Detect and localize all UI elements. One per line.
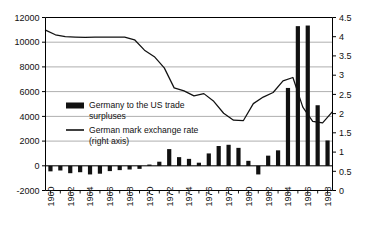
y-tick-label-left: 4000 [19,112,39,122]
bar [316,105,320,166]
bar [236,148,240,166]
bar [88,166,92,175]
y-tick-label-right: 2.5 [339,90,352,100]
bar [187,159,191,166]
y-tick-label-right: 0 [339,186,344,196]
bar [98,166,102,174]
x-tick-label: 1968 [125,186,135,206]
y-tick-label-left: 8000 [19,62,39,72]
y-tick-label-right: 4.5 [339,13,352,23]
y-tick-label-left: 2000 [19,136,39,146]
y-tick-label-right: 1.5 [339,128,352,138]
bar [128,166,132,170]
legend-label-exchange-rate-line2: (right axis) [89,136,129,146]
bar [286,88,290,166]
y-tick-label-left: 12000 [14,13,39,23]
x-tick-label: 1988 [323,186,333,206]
bar [177,157,181,166]
y-tick-label-right: 1 [339,147,344,157]
bar [266,156,270,166]
bar [226,145,230,166]
bar [325,140,329,165]
bar [197,163,201,166]
bar [256,166,260,175]
y-tick-label-left: -2000 [16,186,39,196]
bar [306,26,310,166]
y-tick-label-left: 10000 [14,37,39,47]
x-tick-label: 1960 [46,186,56,206]
bar [108,166,112,171]
x-tick-label: 1966 [105,186,115,206]
bar [58,166,62,171]
legend-label-exchange-rate-line1: German mark exchange rate [89,125,199,135]
y-tick-label-right: 0.5 [339,167,352,177]
y-tick-label-right: 3.5 [339,51,352,61]
x-tick-label: 1982 [264,186,274,206]
chart-container: 120001000080006000400020000-2000 4.543.5… [0,0,378,238]
y-tick-label-left: 0 [34,161,39,171]
x-tick-label: 1972 [165,186,175,206]
y-tick-label-right: 3 [339,70,344,80]
bar [167,149,171,166]
chart-svg: 120001000080006000400020000-2000 4.543.5… [0,0,378,238]
x-tick-label: 1984 [283,186,293,206]
bar [118,166,122,170]
legend-bar-swatch [66,103,84,109]
x-tick-label: 1978 [224,186,234,206]
x-tick-label: 1980 [244,186,254,206]
x-tick-label: 1962 [66,186,76,206]
bar [48,166,52,172]
bar [207,153,211,165]
x-tick-label: 1986 [303,186,313,206]
x-tick-label: 1970 [145,186,155,206]
bar [246,161,250,166]
bar [157,162,161,166]
y-tick-label-right: 2 [339,109,344,119]
x-tick-label: 1964 [85,186,95,206]
x-tick-label: 1974 [184,186,194,206]
bar [137,166,141,169]
y-tick-label-left: 6000 [19,87,39,97]
legend-label-trade-surpluses-line1: Germany to the US trade [89,100,185,110]
bar [276,150,280,165]
y-tick-label-right: 4 [339,32,344,42]
x-axis-tick-labels: 1960196219641966196819701972197419761978… [46,186,333,206]
legend-label-trade-surpluses-line2: surpluses [89,111,126,121]
bar [78,166,82,172]
bar [68,166,72,173]
bar [217,146,221,166]
x-tick-label: 1976 [204,186,214,206]
